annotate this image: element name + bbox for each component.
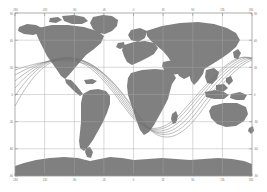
bottom-tick-label: -45	[102, 178, 106, 182]
bottom-tick-label: 180	[249, 178, 254, 182]
right-tick-label: -30	[254, 120, 258, 124]
bottom-tick-label: -90	[72, 178, 76, 182]
bottom-tick-label: -180	[12, 178, 18, 182]
world-map-figure: -180 -135 -90 -45 0 45 90 135 180 -180 -…	[0, 0, 267, 192]
top-tick-label: -45	[102, 8, 106, 12]
bottom-tick-label: 135	[220, 178, 225, 182]
top-tick-label: -135	[42, 8, 48, 12]
top-tick-label: 180	[249, 8, 254, 12]
map-canvas: -180 -135 -90 -45 0 45 90 135 180 -180 -…	[0, 0, 267, 192]
right-tick-label: -90	[254, 174, 258, 178]
left-tick-label: -30	[9, 120, 13, 124]
left-tick-label: -60	[9, 147, 13, 151]
left-tick-label: -90	[9, 174, 13, 178]
bottom-tick-label: -135	[42, 178, 48, 182]
top-tick-label: -180	[12, 8, 18, 12]
top-tick-label: 135	[220, 8, 225, 12]
right-tick-label: -60	[254, 147, 258, 151]
top-tick-label: -90	[72, 8, 76, 12]
